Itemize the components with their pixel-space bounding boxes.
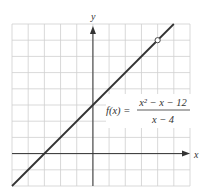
function-graph: x y f(x) = x² − x − 12 x − 4 (0, 0, 204, 194)
y-axis-arrow-icon (90, 26, 96, 34)
points (155, 38, 160, 43)
annotation-lhs: f(x) = (106, 105, 130, 117)
hole-point (155, 38, 160, 43)
annotation-denominator: x − 4 (151, 114, 175, 125)
annotation-numerator: x² − x − 12 (138, 97, 187, 108)
function-annotation: f(x) = x² − x − 12 x − 4 (106, 94, 192, 128)
x-axis-label: x (193, 149, 199, 160)
y-axis-label: y (90, 11, 96, 22)
x-axis-arrow-icon (182, 151, 190, 157)
